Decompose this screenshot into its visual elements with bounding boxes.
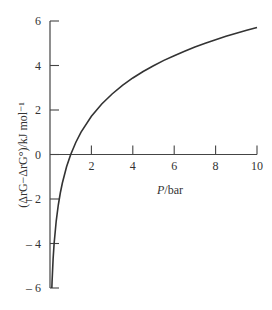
y-tick-label: 0 [35,148,41,162]
y-tick-label: 2 [35,103,41,117]
x-tick-label: 2 [88,159,94,173]
data-curve [52,27,257,288]
y-tick-label: 6 [35,14,41,28]
y-tick-label: – 4 [25,237,41,251]
y-tick-label: 4 [35,59,41,73]
y-axis-label: (ΔrG−ΔrG°)/kJ mol⁻¹ [16,102,30,208]
x-tick-label: 8 [213,159,219,173]
x-tick-label: 4 [130,159,136,173]
x-tick-label: 10 [251,159,263,173]
chart: 6420– 2– 4– 6 246810 P/bar (ΔrG−ΔrG°)/kJ… [0,0,272,310]
x-axis: 246810 [50,146,263,173]
x-tick-label: 6 [171,159,177,173]
y-tick-label: – 6 [25,281,41,295]
x-axis-label: P/bar [156,183,183,197]
